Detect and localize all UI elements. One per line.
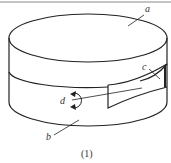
label-d: d [60, 95, 66, 106]
b-leader [54, 120, 79, 135]
label-b: b [46, 131, 51, 142]
band-line [9, 72, 108, 88]
label-c: c [142, 61, 147, 72]
figure-caption: (1) [81, 148, 93, 160]
arrowhead-top-icon [70, 91, 76, 97]
label-a: a [145, 3, 150, 14]
cylinder-diagram: a c d b (1) [0, 0, 171, 163]
arrowhead-bottom-icon [70, 104, 76, 110]
bottom-edge [9, 102, 167, 126]
channel-upper [108, 64, 167, 85]
top-surface [9, 14, 167, 62]
